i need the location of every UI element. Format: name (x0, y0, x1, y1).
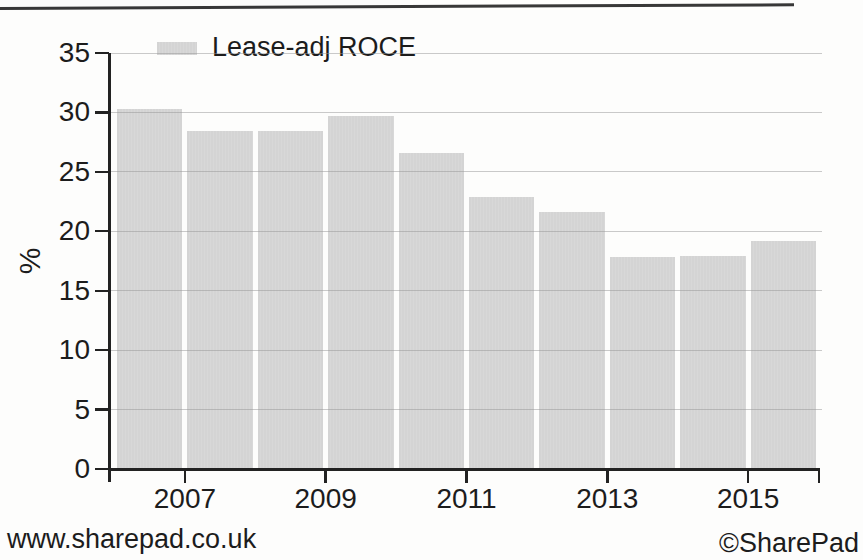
gridline-25 (110, 171, 822, 172)
bar-2007 (187, 131, 252, 469)
gridline-5 (110, 409, 822, 410)
gridline-35 (110, 53, 822, 54)
x-tick-2011 (465, 471, 468, 483)
x-tick-2013 (606, 471, 609, 483)
plot-area (110, 53, 820, 469)
y-tick-label-15: 15 (24, 276, 90, 306)
y-tick-15 (95, 290, 109, 292)
y-tick-label-30: 30 (24, 97, 90, 127)
y-axis-line (108, 53, 111, 482)
bar-2015 (751, 241, 816, 469)
y-tick-10 (95, 349, 109, 351)
x-tick-2009 (324, 471, 327, 483)
bar-2006 (117, 109, 182, 469)
bar-2009 (328, 116, 393, 469)
y-tick-label-35: 35 (24, 38, 90, 68)
footer-copyright-text: ©SharePad (719, 528, 859, 558)
x-tick-label-2013: 2013 (542, 484, 672, 514)
y-tick-35 (95, 52, 109, 54)
bar-2012 (539, 212, 604, 469)
bar-2011 (469, 197, 534, 469)
y-tick-25 (95, 171, 109, 173)
x-tick-2007 (184, 471, 187, 483)
y-tick-0 (95, 468, 109, 470)
y-tick-5 (95, 408, 109, 410)
y-tick-30 (95, 111, 109, 113)
x-tick-label-2007: 2007 (120, 484, 250, 514)
chart-canvas: Lease-adj ROCE % www.sharepad.co.uk ©Sha… (0, 0, 863, 560)
x-axis-end-tick (818, 471, 821, 483)
x-tick-2015 (747, 471, 750, 483)
y-tick-label-25: 25 (24, 157, 90, 187)
bar-2014 (680, 256, 745, 469)
bar-2013 (610, 257, 675, 469)
bar-2008 (258, 131, 323, 469)
x-tick-label-2015: 2015 (683, 484, 813, 514)
gridline-20 (110, 231, 822, 232)
footer-website-text: www.sharepad.co.uk (7, 524, 256, 554)
y-tick-label-5: 5 (24, 395, 90, 425)
gridline-15 (110, 290, 822, 291)
y-tick-label-10: 10 (24, 335, 90, 365)
x-axis-line (108, 468, 820, 471)
x-tick-label-2011: 2011 (402, 484, 532, 514)
y-tick-label-20: 20 (24, 216, 90, 246)
y-tick-20 (95, 230, 109, 232)
gridline-10 (110, 350, 822, 351)
bar-2010 (399, 153, 464, 469)
gridline-30 (110, 112, 822, 113)
x-tick-label-2009: 2009 (261, 484, 391, 514)
y-tick-label-0: 0 (24, 454, 90, 484)
top-rule-divider (0, 3, 794, 10)
